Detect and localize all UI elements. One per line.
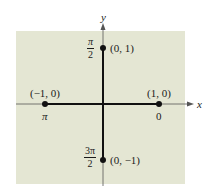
point-top [100,45,106,51]
x-axis-arrow-icon [187,102,194,107]
angle-label-right: 0 [156,111,162,122]
point-right [156,101,162,107]
y-axis-arrow-icon [101,23,106,30]
y-axis-label: y [101,12,106,23]
coord-label-bottom: (0, −1) [110,155,140,166]
point-bottom [100,157,106,163]
coord-label-left: (−1, 0) [30,88,60,99]
angle-label-top: π 2 [87,37,94,60]
point-left [42,101,48,107]
x-axis-label: x [197,99,202,110]
angle-label-left: π [42,111,48,122]
coord-label-right: (1, 0) [147,88,171,99]
coord-label-top: (0, 1) [110,43,134,54]
angle-label-bottom: 3π 2 [84,146,96,169]
